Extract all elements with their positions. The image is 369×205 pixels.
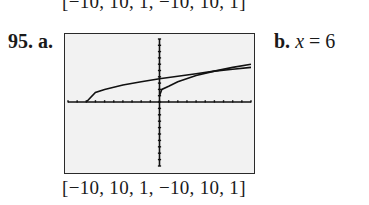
answer-value: = 6: [304, 30, 335, 52]
curve-1-line: [86, 67, 251, 102]
part-a-label: a.: [38, 30, 53, 52]
window-setting: [−10, 10, 1, −10, 10, 1]: [62, 177, 246, 199]
calculator-screen: [64, 33, 255, 174]
problem-label-a: 95. a.: [8, 30, 53, 53]
graph-plot: [65, 34, 254, 173]
part-b-answer: b. x = 6: [274, 30, 335, 53]
problem-number: 95.: [8, 30, 33, 52]
answer-variable: x: [295, 30, 304, 52]
part-b-label: b.: [274, 30, 290, 52]
previous-window-setting: [−10, 10, 1, −10, 10, 1]: [62, 0, 246, 13]
